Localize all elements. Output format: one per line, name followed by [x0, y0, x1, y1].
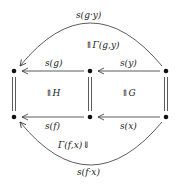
node-bottom-left	[12, 115, 17, 120]
right-equality	[165, 77, 168, 111]
bottom-arc-arrow	[20, 122, 162, 165]
node-bottom-right	[164, 115, 169, 120]
g-cell-label: ⇑G	[121, 89, 136, 98]
s-g-label: s(g)	[45, 59, 62, 68]
bottom-arc-label: s(f·x)	[77, 168, 100, 177]
bottom-two-cell-label: Γ(f,x)⇓	[58, 141, 90, 150]
node-bottom-middle	[88, 115, 93, 120]
left-equality	[13, 77, 16, 111]
node-top-left	[12, 69, 17, 74]
top-two-cell-label: ⇑Γ(g,y)	[85, 41, 120, 50]
s-x-label: s(x)	[120, 122, 137, 131]
s-f-label: s(f)	[45, 122, 60, 131]
h-cell-label: ⇑H	[45, 89, 60, 98]
middle-equality	[89, 77, 92, 111]
top-arc-label: s(g·y)	[76, 11, 101, 20]
node-top-right	[164, 69, 169, 74]
diagram-canvas	[0, 0, 180, 186]
s-y-label: s(y)	[120, 59, 137, 68]
node-top-middle	[88, 69, 93, 74]
